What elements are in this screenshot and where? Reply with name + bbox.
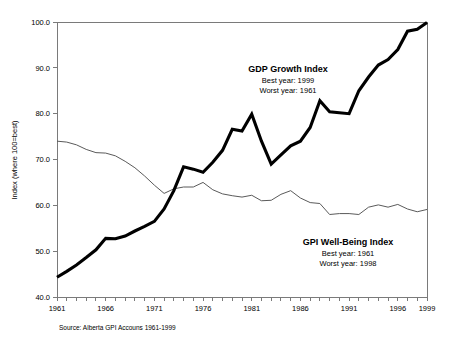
x-tick-label: 1976 bbox=[195, 304, 212, 313]
annotation-gpi-title: GPI Well-Being Index bbox=[303, 237, 393, 247]
y-tick-label: 60.0 bbox=[35, 201, 50, 210]
annotation-gpi-best-year: Best year: 1961 bbox=[322, 249, 375, 258]
x-tick-label: 1999 bbox=[419, 304, 436, 313]
x-tick-label: 1961 bbox=[49, 304, 66, 313]
y-tick-label: 40.0 bbox=[35, 293, 50, 302]
x-tick-label: 1996 bbox=[389, 304, 406, 313]
source-note: Source: Alberta GPI Accouns 1961-1999 bbox=[59, 324, 176, 331]
x-tick-label: 1986 bbox=[292, 304, 309, 313]
y-axis-ticks bbox=[53, 22, 57, 297]
annotation-gdp-title: GDP Growth Index bbox=[248, 64, 327, 74]
x-tick-label: 1991 bbox=[341, 304, 358, 313]
gpi-gdp-index-chart: 40.050.060.070.080.090.0100.0 1961196619… bbox=[0, 0, 451, 349]
y-axis-title: Index (where 100=best) bbox=[10, 120, 19, 200]
y-tick-label: 50.0 bbox=[35, 247, 50, 256]
x-axis-tick-labels: 196119661971197619811986199119961999 bbox=[49, 304, 436, 313]
x-tick-label: 1966 bbox=[97, 304, 114, 313]
y-tick-label: 100.0 bbox=[31, 18, 50, 27]
annotation-gdp-best-year: Best year: 1999 bbox=[262, 76, 315, 85]
annotation-gpi-worst-year: Worst year: 1998 bbox=[320, 259, 377, 268]
y-axis-tick-labels: 40.050.060.070.080.090.0100.0 bbox=[31, 18, 50, 302]
y-tick-label: 90.0 bbox=[35, 64, 50, 73]
x-tick-label: 1971 bbox=[146, 304, 163, 313]
chart-canvas: 40.050.060.070.080.090.0100.0 1961196619… bbox=[0, 0, 451, 349]
y-tick-label: 80.0 bbox=[35, 109, 50, 118]
x-tick-label: 1981 bbox=[243, 304, 260, 313]
y-tick-label: 70.0 bbox=[35, 155, 50, 164]
x-axis-ticks bbox=[57, 297, 427, 301]
annotation-gdp-worst-year: Worst year: 1961 bbox=[260, 86, 317, 95]
